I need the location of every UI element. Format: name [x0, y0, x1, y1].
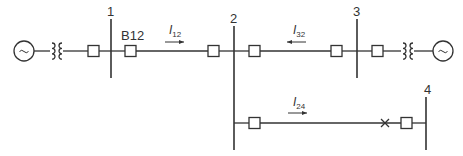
- breaker-b12-icon: [125, 46, 136, 57]
- current-i32-label: I32: [293, 23, 306, 39]
- arrow-i12-icon: [165, 40, 184, 44]
- generator-right-icon: [433, 41, 453, 61]
- transformer-right-icon: [403, 43, 413, 59]
- arrow-i24-icon: [288, 111, 307, 115]
- breaker-42-icon: [401, 118, 412, 129]
- bus-2-label: 2: [230, 11, 237, 26]
- breaker-gen3-icon: [372, 46, 383, 57]
- current-i12-label: I12: [169, 23, 182, 39]
- breaker-32-icon: [331, 46, 342, 57]
- breaker-24-icon: [249, 118, 260, 129]
- power-system-diagram: 1 2 3 4 B12 I12 I32 I24: [0, 0, 463, 156]
- current-i24-label: I24: [293, 95, 306, 111]
- transformer-left-icon: [52, 43, 62, 59]
- bus-4-label: 4: [424, 82, 431, 97]
- breaker-21-icon: [208, 46, 219, 57]
- bus-1-label: 1: [107, 4, 114, 19]
- arrow-i32-icon: [287, 40, 306, 44]
- generator-left-icon: [14, 41, 34, 61]
- bus-3-label: 3: [353, 4, 360, 19]
- breaker-b12-label: B12: [121, 28, 144, 43]
- breaker-23-icon: [249, 46, 260, 57]
- breaker-gen1-icon: [88, 46, 99, 57]
